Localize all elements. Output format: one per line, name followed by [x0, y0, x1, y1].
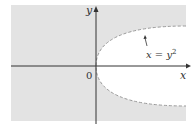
x-axis-arrow-icon	[186, 64, 191, 69]
equation-label: x = y2	[146, 48, 177, 60]
y-axis-label: y	[85, 4, 93, 17]
x-axis-label: x	[180, 69, 187, 82]
origin-label: 0	[86, 70, 92, 81]
region-diagram: y x 0 x = y2	[0, 0, 196, 133]
